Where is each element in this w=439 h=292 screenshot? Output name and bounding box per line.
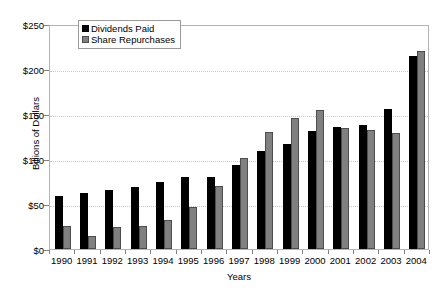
x-axis-tick-mark <box>429 250 430 254</box>
bar-share-repurchases <box>215 186 223 249</box>
x-axis-tick-mark <box>125 250 126 254</box>
bar-dividends-paid <box>409 56 417 250</box>
bar-share-repurchases <box>88 236 96 250</box>
x-axis-tick-mark <box>150 250 151 254</box>
legend-label-dividends-paid: Dividends Paid <box>91 23 154 34</box>
bar-dividends-paid <box>359 125 367 249</box>
x-axis-tick-mark <box>226 250 227 254</box>
bar-dividends-paid <box>232 165 240 249</box>
bar-group <box>257 26 273 249</box>
bar-dividends-paid <box>283 144 291 249</box>
bar-dividends-paid <box>207 177 215 249</box>
x-axis-tick-mark <box>353 250 354 254</box>
x-axis-tick-label: 2004 <box>396 255 436 266</box>
bar-share-repurchases <box>316 110 324 250</box>
y-axis-tick-label: $0 <box>2 245 44 256</box>
bar-share-repurchases <box>341 128 349 249</box>
x-axis-tick-mark <box>49 250 50 254</box>
bar-share-repurchases <box>265 132 273 249</box>
x-axis-tick-mark <box>176 250 177 254</box>
bar-group <box>359 26 375 249</box>
bar-dividends-paid <box>333 127 341 249</box>
chart-legend: Dividends Paid Share Repurchases <box>78 20 181 49</box>
x-axis-tick-mark <box>302 250 303 254</box>
bar-group <box>207 26 223 249</box>
legend-swatch-icon-share-repurchases <box>82 36 89 43</box>
bar-share-repurchases <box>392 133 400 249</box>
legend-swatch-icon-dividends-paid <box>82 25 89 32</box>
bar-group <box>131 26 147 249</box>
bar-group <box>283 26 299 249</box>
x-axis-tick-mark <box>378 250 379 254</box>
legend-item-share-repurchases: Share Repurchases <box>82 34 175 45</box>
bar-group <box>308 26 324 249</box>
x-axis-tick-mark <box>100 250 101 254</box>
bar-group <box>384 26 400 249</box>
bar-share-repurchases <box>139 226 147 249</box>
bar-dividends-paid <box>80 193 88 249</box>
bar-share-repurchases <box>63 226 71 249</box>
bar-dividends-paid <box>131 187 139 249</box>
bar-group <box>55 26 71 249</box>
bar-dividends-paid <box>156 182 164 249</box>
bar-dividends-paid <box>105 190 113 249</box>
x-axis-tick-mark <box>74 250 75 254</box>
x-axis-tick-mark <box>404 250 405 254</box>
bar-dividends-paid <box>257 151 265 249</box>
x-axis-tick-mark <box>252 250 253 254</box>
y-axis-tick-label: $250 <box>2 20 44 31</box>
bar-group <box>181 26 197 249</box>
x-axis-title: Years <box>49 271 429 282</box>
bar-share-repurchases <box>164 220 172 249</box>
bar-series-container <box>50 26 428 249</box>
bar-dividends-paid <box>55 196 63 249</box>
x-axis-tick-mark <box>201 250 202 254</box>
bar-chart-figure: Billions of Dollars $0$50$100$150$200$25… <box>0 0 439 292</box>
bar-group <box>232 26 248 249</box>
bar-share-repurchases <box>189 207 197 249</box>
bar-dividends-paid <box>181 177 189 249</box>
bar-share-repurchases <box>367 130 375 249</box>
bar-share-repurchases <box>113 227 121 249</box>
y-axis-tick-label: $100 <box>2 155 44 166</box>
legend-item-dividends-paid: Dividends Paid <box>82 23 175 34</box>
bar-group <box>80 26 96 249</box>
legend-label-share-repurchases: Share Repurchases <box>91 34 175 45</box>
y-axis-tick-label: $150 <box>2 110 44 121</box>
bar-share-repurchases <box>417 51 425 249</box>
bar-group <box>156 26 172 249</box>
bar-group <box>333 26 349 249</box>
x-axis-tick-mark <box>328 250 329 254</box>
bar-group <box>105 26 121 249</box>
bar-dividends-paid <box>308 131 316 249</box>
y-axis-tick-label: $50 <box>2 200 44 211</box>
bar-share-repurchases <box>291 118 299 249</box>
y-axis-tick-label: $200 <box>2 65 44 76</box>
bar-group <box>409 26 425 249</box>
y-axis-title: Billions of Dollars <box>30 54 41 214</box>
plot-area <box>49 25 429 250</box>
x-axis-tick-mark <box>277 250 278 254</box>
bar-dividends-paid <box>384 109 392 249</box>
bar-share-repurchases <box>240 158 248 249</box>
